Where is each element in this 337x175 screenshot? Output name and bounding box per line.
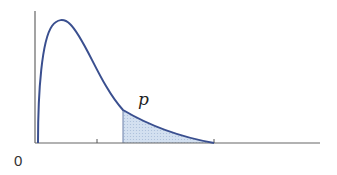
density-chart: [0, 0, 337, 175]
p-value-label: p: [138, 89, 149, 109]
shaded-tail-area: [123, 110, 214, 143]
origin-label: 0: [14, 152, 22, 169]
